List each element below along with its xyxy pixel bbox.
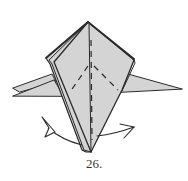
origami-diagram <box>0 0 188 181</box>
right-wing <box>120 74 182 92</box>
step-label: 26. <box>0 156 188 172</box>
